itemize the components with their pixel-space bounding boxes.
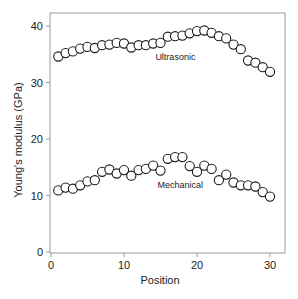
data-point-marker xyxy=(178,153,187,162)
data-point-marker xyxy=(156,166,165,175)
y-tick-label: 0 xyxy=(37,246,43,258)
y-tick-label: 20 xyxy=(31,133,43,145)
data-point-marker xyxy=(236,45,245,54)
x-tick-label: 30 xyxy=(264,259,276,271)
data-point-marker xyxy=(90,176,99,185)
series-ultrasonic: Ultrasonic xyxy=(54,26,275,77)
x-tick-label: 20 xyxy=(191,259,203,271)
y-axis-title: Young's modulus (GPa) xyxy=(12,82,24,197)
data-point-marker xyxy=(207,164,216,173)
y-tick-label: 10 xyxy=(31,190,43,202)
x-axis-title: Position xyxy=(140,274,179,286)
chart-container: 010203040 0102030 UltrasonicMechanical P… xyxy=(0,0,298,299)
y-axis-ticks: 010203040 xyxy=(31,20,50,258)
series-label-mechanical: Mechanical xyxy=(158,180,204,190)
x-tick-label: 10 xyxy=(118,259,130,271)
data-point-marker xyxy=(265,67,274,76)
y-tick-label: 30 xyxy=(31,77,43,89)
series-label-ultrasonic: Ultrasonic xyxy=(155,52,196,62)
y-tick-label: 40 xyxy=(31,20,43,32)
youngs-modulus-scatter-chart: 010203040 0102030 UltrasonicMechanical P… xyxy=(0,0,298,299)
data-point-marker xyxy=(265,192,274,201)
series-layer: UltrasonicMechanical xyxy=(54,26,275,201)
data-point-marker xyxy=(222,170,231,179)
x-axis-ticks: 0102030 xyxy=(48,253,276,271)
series-mechanical: Mechanical xyxy=(54,153,275,202)
x-tick-label: 0 xyxy=(48,259,54,271)
